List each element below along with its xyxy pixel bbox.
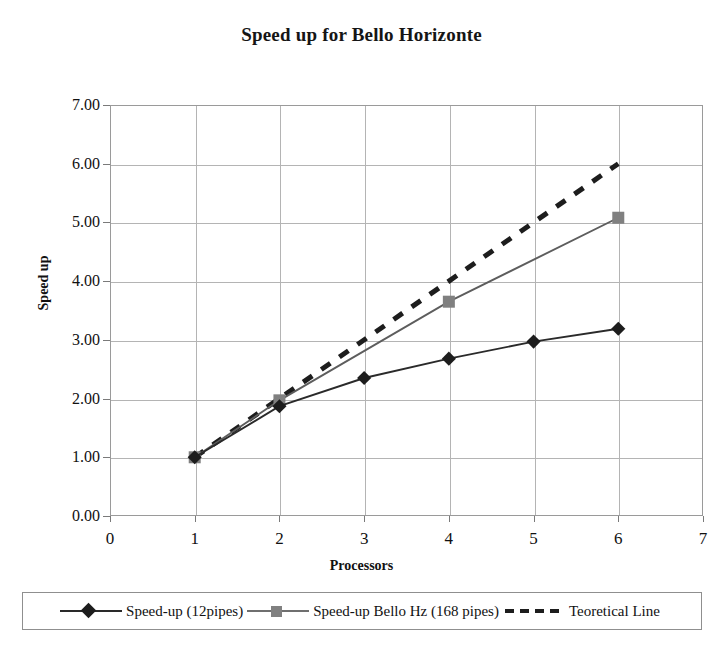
x-axis-tick-label: 1 <box>175 530 215 547</box>
y-axis-tick-mark <box>103 457 110 458</box>
legend-item[interactable]: Teoretical Line <box>503 602 664 620</box>
x-axis-tick-mark <box>534 516 535 522</box>
x-axis-tick-mark <box>110 516 111 522</box>
y-axis-tick-label: 6.00 <box>44 156 100 172</box>
y-axis-tick-mark <box>103 340 110 341</box>
x-axis-tick-mark <box>703 516 704 522</box>
x-axis-tick-label: 5 <box>514 530 554 547</box>
y-axis-tick-mark <box>103 281 110 282</box>
y-axis-tick-label: 4.00 <box>44 273 100 289</box>
y-axis-tick-label: 1.00 <box>44 449 100 465</box>
y-axis-tick-mark <box>103 222 110 223</box>
square-marker-icon <box>247 602 309 620</box>
dashed-line-icon <box>503 602 565 620</box>
x-axis-tick-label: 6 <box>598 530 638 547</box>
y-axis-tick-mark <box>103 399 110 400</box>
x-axis-tick-mark <box>618 516 619 522</box>
y-axis-tick-mark <box>103 105 110 106</box>
series-line <box>195 329 619 458</box>
legend-item-label: Teoretical Line <box>565 603 664 620</box>
y-axis-tick-mark <box>103 516 110 517</box>
y-axis-tick-label: 2.00 <box>44 391 100 407</box>
x-axis-tick-label: 7 <box>683 530 723 547</box>
x-axis-tick-mark <box>279 516 280 522</box>
x-axis-tick-mark <box>195 516 196 522</box>
x-axis-tick-label: 2 <box>259 530 299 547</box>
legend-item[interactable]: Speed-up (12pipes) <box>60 602 247 620</box>
y-axis-tick-label: 5.00 <box>44 214 100 230</box>
y-axis-tick-label: 7.00 <box>44 97 100 113</box>
x-axis-tick-label: 4 <box>429 530 469 547</box>
y-axis-tick-label: 0.00 <box>44 508 100 524</box>
chart-container: Speed up for Bello Horizonte 0.001.002.0… <box>0 0 723 646</box>
chart-title: Speed up for Bello Horizonte <box>0 24 723 46</box>
series-line <box>195 164 619 458</box>
diamond-marker-icon <box>60 602 122 620</box>
data-point-diamond <box>611 322 625 336</box>
x-axis-tick-label: 3 <box>344 530 384 547</box>
legend-item[interactable]: Speed-up Bello Hz (168 pipes) <box>247 602 503 620</box>
y-axis-tick-label: 3.00 <box>44 332 100 348</box>
y-axis-title: Speed up <box>36 223 52 343</box>
y-axis-tick-mark <box>103 164 110 165</box>
chart-data-layer <box>110 105 703 516</box>
x-axis-tick-label: 0 <box>90 530 130 547</box>
x-axis-tick-mark <box>364 516 365 522</box>
data-point-diamond <box>442 352 456 366</box>
data-point-square <box>443 296 455 308</box>
data-point-diamond <box>527 335 541 349</box>
x-axis-tick-mark <box>449 516 450 522</box>
data-point-square <box>612 212 624 224</box>
x-axis-title: Processors <box>0 558 723 574</box>
legend-item-label: Speed-up Bello Hz (168 pipes) <box>309 603 503 620</box>
data-point-diamond <box>357 371 371 385</box>
chart-legend: Speed-up (12pipes)Speed-up Bello Hz (168… <box>22 592 702 630</box>
legend-item-label: Speed-up (12pipes) <box>122 603 247 620</box>
